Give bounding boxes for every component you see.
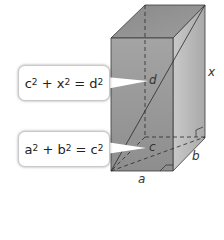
eq2-exp3: 2 (98, 143, 104, 153)
eq1-exp2: 2 (64, 77, 70, 87)
label-depth-b: b (192, 149, 200, 163)
eq2-exp2: 2 (66, 143, 72, 153)
eq1-c: c (25, 76, 32, 91)
eq1-exp1: 2 (32, 77, 38, 87)
eq1-d: = d (70, 76, 97, 91)
eq2-b: + b (38, 142, 65, 157)
label-space-diagonal-d: d (149, 73, 157, 87)
eq2-exp1: 2 (33, 143, 39, 153)
callout-space-diagonal-equation: c2 + x2 = d2 (18, 65, 110, 101)
eq1-exp3: 2 (98, 77, 104, 87)
callout-base-diagonal-equation: a2 + b2 = c2 (18, 131, 110, 167)
eq2-c: = c (71, 142, 97, 157)
eq2-a: a (25, 142, 33, 157)
label-width-a: a (138, 172, 145, 186)
label-base-diagonal-c: c (149, 140, 156, 154)
label-height-x: x (208, 65, 215, 79)
eq1-x: + x (38, 76, 65, 91)
